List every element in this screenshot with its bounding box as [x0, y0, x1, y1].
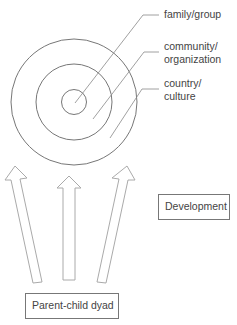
label-country-line2: culture: [164, 90, 201, 103]
outer-ring-country-culture: [11, 39, 137, 165]
middle-ring-community-organization: [36, 64, 112, 140]
parent-child-dyad-label: Parent-child dyad: [32, 299, 114, 311]
arrow-right-icon: [97, 166, 135, 283]
arrow-center-icon: [57, 176, 81, 280]
leader-line-family: [75, 15, 159, 103]
development-box: Development: [158, 194, 230, 220]
label-community-line2: organization: [164, 53, 221, 66]
leader-line-country: [110, 89, 159, 138]
label-family-group: family/group: [164, 8, 221, 21]
parent-child-dyad-box: Parent-child dyad: [25, 293, 119, 319]
leader-line-community: [93, 52, 159, 119]
label-country-culture: country/ culture: [164, 77, 201, 103]
label-family-text: family/group: [164, 8, 221, 20]
label-community-organization: community/ organization: [164, 40, 221, 66]
label-country-line1: country/: [164, 77, 201, 90]
label-community-line1: community/: [164, 40, 221, 53]
arrow-left-icon: [5, 166, 42, 283]
development-label: Development: [165, 200, 227, 212]
